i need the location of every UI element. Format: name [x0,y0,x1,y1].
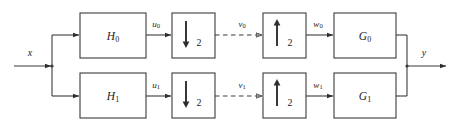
input-node: x [14,35,79,96]
branch-0-group: H0 u0 2 v0 2 w0 G0 [80,13,407,58]
downsampler-1-block[interactable] [172,73,215,118]
upsampler-0-block[interactable] [263,13,306,58]
output-label: y [421,47,427,58]
input-junction-dot [50,64,53,67]
signal-label-v1: v1 [238,80,245,91]
signal-label-v0: v0 [238,19,245,30]
upsampler-1-factor: 2 [288,97,293,108]
output-node: y [405,35,446,96]
signal-label-w1: w1 [313,80,322,91]
upsampler-1-block[interactable] [263,73,306,118]
downsampler-0-factor: 2 [197,37,202,48]
downsampler-0-block[interactable] [172,13,215,58]
diagram-canvas: x H0 u0 2 v0 [0,0,462,130]
signal-label-w0: w0 [313,19,322,30]
branch-1-group: H1 u1 2 v1 2 w1 G1 [80,73,407,118]
upsampler-0-factor: 2 [288,37,293,48]
signal-label-u0: u0 [152,19,160,30]
signal-label-u1: u1 [152,80,160,91]
downsampler-1-factor: 2 [197,97,202,108]
filter-bank-diagram: x H0 u0 2 v0 [0,0,462,130]
input-label: x [27,47,33,58]
